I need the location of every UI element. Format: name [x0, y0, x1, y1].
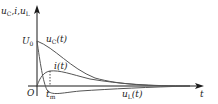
label-uL: uL(t) — [122, 89, 143, 100]
y-axis — [34, 5, 40, 96]
x-tick-tm: tm — [46, 89, 56, 100]
y-axis-label: uC,i,uL — [1, 6, 30, 17]
transient-waveform-diagram: uC,i,uL U0 O tm t uC(t) i(t) uL(t) — [0, 0, 218, 104]
label-uC: uC(t) — [46, 34, 68, 45]
y-tick-U0: U0 — [22, 36, 34, 47]
origin-label: O — [27, 88, 35, 98]
curve-i — [37, 71, 190, 86]
label-i: i(t) — [54, 61, 68, 71]
x-axis-label: t — [200, 89, 204, 99]
